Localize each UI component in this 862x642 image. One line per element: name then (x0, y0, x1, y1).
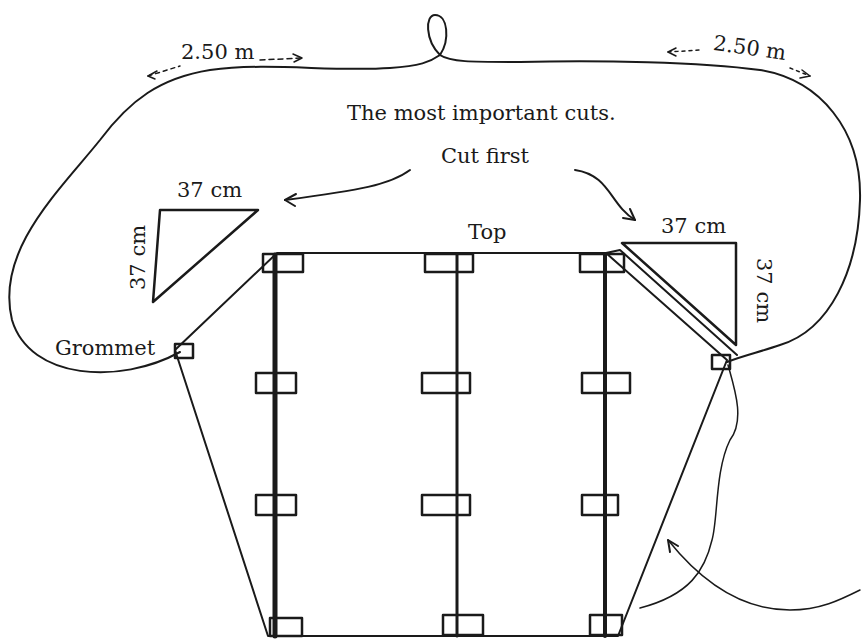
left-cut-triangle (153, 210, 258, 302)
top-label: Top (468, 222, 506, 243)
bridle-left-length-label: 2.50 m (181, 42, 254, 63)
grommet-label: Grommet (55, 338, 155, 359)
note-arrow-left (285, 170, 410, 200)
towing-loop (428, 15, 446, 55)
note-arrow-right (575, 170, 635, 220)
left-cut-top-label: 37 cm (177, 180, 242, 201)
left-cut-side-label: 37 cm (128, 225, 149, 290)
right-cut-side-label: 37 cm (753, 258, 774, 323)
kite-diagram (0, 0, 862, 642)
right-cut-top-label: 37 cm (661, 216, 726, 237)
kite-outline (175, 253, 727, 636)
note-line-2: Cut first (441, 146, 529, 167)
note-line-1: The most important cuts. (347, 103, 616, 124)
right-cut-triangle (622, 243, 736, 345)
